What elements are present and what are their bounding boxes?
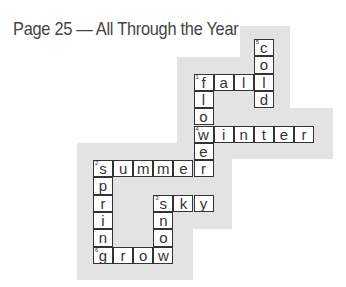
cell-letter: e [199,144,207,160]
cell-letter: s [99,161,107,177]
cell-letter: r [101,196,106,212]
crossword-cell: 6g [93,247,113,264]
crossword-cell: r [294,126,314,143]
crossword-cell: p [93,177,113,194]
clue-number: 5 [256,39,259,46]
cell-letter: p [99,178,107,194]
cell-letter: o [199,109,207,125]
crossword-cell: w [153,247,173,264]
cell-letter: w [198,127,209,143]
cell-letter: w [158,248,169,264]
cell-letter: a [219,75,227,91]
cell-letter: n [159,213,167,229]
crossword-cell: d [254,91,274,108]
cell-letter: f [201,75,205,91]
cell-letter: g [99,248,107,264]
crossword-cell: a [214,74,234,91]
cell-letter: u [119,161,127,177]
crossword-cell: i [93,212,113,229]
cell-letter: i [101,213,104,229]
cell-letter: e [179,161,187,177]
crossword-cell: t [254,126,274,143]
crossword-cell: r [194,160,214,177]
crossword-cell: e [274,126,294,143]
cell-letter: m [137,161,150,177]
crossword-cell: 1f [194,74,214,91]
crossword-cell: 2s [93,160,113,177]
clue-number: 3 [155,195,158,202]
crossword-cell: o [153,229,173,246]
cell-letter: l [242,75,245,91]
crossword-cell: o [254,56,274,73]
crossword-cell: o [133,247,153,264]
cell-letter: s [160,196,168,212]
cell-letter: i [222,127,225,143]
crossword-cell: e [173,160,193,177]
cell-letter: d [260,92,268,108]
cell-letter: l [202,92,205,108]
crossword-cell: u [113,160,133,177]
cell-letter: y [200,196,208,212]
crossword-cell: y [194,195,214,212]
crossword-cell: m [133,160,153,177]
crossword-cell: i [214,126,234,143]
clue-number: 6 [95,247,98,254]
crossword-cell: r [113,247,133,264]
crossword-cell: o [194,108,214,125]
cell-letter: r [201,161,206,177]
cell-letter: r [302,127,307,143]
crossword-cell: n [234,126,254,143]
crossword-cell: 5c [254,39,274,56]
cell-letter: m [157,161,170,177]
crossword-cell: r [93,195,113,212]
cell-letter: l [262,75,265,91]
cell-letter: o [159,230,167,246]
crossword-cell: e [194,143,214,160]
crossword-cell: l [254,74,274,91]
cell-letter: k [180,196,188,212]
crossword-cell: 4w [194,126,214,143]
clue-number: 4 [196,126,199,133]
cell-letter: n [99,230,107,246]
crossword-cell: l [234,74,254,91]
crossword-cell: n [93,229,113,246]
crossword-cell: n [153,212,173,229]
cell-letter: c [260,40,268,56]
crossword-cell: 3s [153,195,173,212]
cell-letter: o [139,248,147,264]
crossword-cell: m [153,160,173,177]
crossword-cell: l [194,91,214,108]
cell-letter: t [262,127,266,143]
clue-number: 2 [95,160,98,167]
cell-letter: r [121,248,126,264]
crossword-cell: k [173,195,193,212]
cell-letter: e [280,127,288,143]
cell-letter: o [260,57,268,73]
cell-letter: n [240,127,248,143]
clue-number: 1 [196,74,199,81]
